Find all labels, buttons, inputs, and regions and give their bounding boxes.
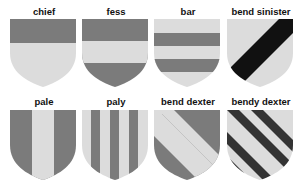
shield-label: bend dexter [152, 96, 224, 107]
shield-label: pale [8, 96, 80, 107]
shield-label: paly [80, 96, 152, 107]
shield-label: bend sinister [225, 6, 297, 17]
shield-label: fess [80, 6, 152, 17]
bar-shield-icon [154, 19, 220, 87]
fess-shield-icon [82, 19, 148, 87]
bendy-dexter-shield-icon [227, 109, 293, 181]
bend-dexter-shield-icon [154, 109, 220, 181]
paly-shield-icon [82, 109, 148, 181]
bend-sinister-shield-icon [227, 19, 293, 87]
pale-shield-icon [10, 109, 76, 181]
shield-label: bendy dexter [225, 96, 297, 107]
shield-label: bar [152, 6, 224, 17]
shield-label: chief [8, 6, 80, 17]
chief-shield-icon [10, 19, 76, 87]
